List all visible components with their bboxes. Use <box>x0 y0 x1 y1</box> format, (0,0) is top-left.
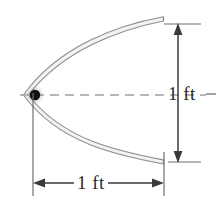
focus-point <box>24 84 46 106</box>
horizontal-arrowhead-left <box>33 179 45 188</box>
horizontal-arrowhead-right <box>152 179 164 188</box>
extension-lines <box>33 24 201 196</box>
vertical-dimension-label: 1 ft <box>168 84 196 103</box>
horizontal-dimension-label: 1 ft <box>74 173 108 192</box>
focus-dot <box>30 90 40 100</box>
parabolic-dish-figure: 1 ft 1 ft <box>0 0 222 207</box>
vertical-arrowhead-up <box>174 23 183 35</box>
vertical-arrowhead-down <box>174 151 183 163</box>
